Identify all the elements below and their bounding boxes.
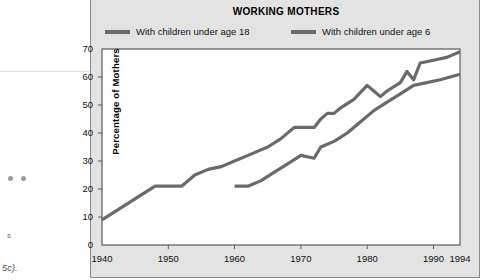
page-margin: s 5c).: [0, 0, 90, 280]
y-axis-tick-label: 50: [71, 99, 93, 110]
x-axis-tick-label: 1950: [148, 253, 188, 264]
y-axis-tick-label: 70: [71, 43, 93, 54]
margin-reference-fragment: 5c).: [2, 263, 18, 273]
y-axis-title: Percentage of Mothers: [110, 32, 121, 172]
y-axis-tick-label: 10: [71, 211, 93, 222]
plot-area: Percentage of Mothers 010203040506070194…: [91, 0, 481, 278]
y-axis-tick-label: 60: [71, 71, 93, 82]
y-axis-tick-label: 0: [71, 239, 93, 250]
y-axis-tick-label: 40: [71, 127, 93, 138]
chart-svg: [91, 0, 481, 278]
margin-text-fragment: s: [7, 231, 11, 240]
x-axis-tick-label: 1980: [347, 253, 387, 264]
x-axis-tick-label: 1994: [440, 253, 480, 264]
x-axis-tick-label: 1960: [215, 253, 255, 264]
margin-bullet-dot-icon: [8, 176, 13, 181]
page-right-gutter: [481, 0, 501, 280]
margin-bullet-dot-icon: [21, 176, 26, 181]
y-axis-tick-label: 30: [71, 155, 93, 166]
y-axis-tick-label: 20: [71, 183, 93, 194]
x-axis-tick-label: 1970: [281, 253, 321, 264]
figure-frame: WORKING MOTHERS With children under age …: [90, 0, 480, 278]
x-axis-tick-label: 1940: [82, 253, 122, 264]
